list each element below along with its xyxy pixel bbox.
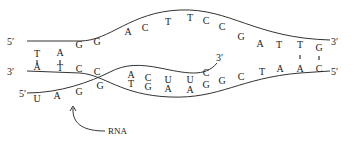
rna-pointer-line [73, 108, 105, 131]
coding-base: G [315, 42, 322, 53]
coding-base: C [142, 22, 149, 33]
template-base: C [238, 71, 245, 82]
rna-base: C [203, 67, 210, 78]
coding-base: G [93, 36, 100, 47]
template-base: A [186, 84, 194, 95]
coding-base: T [297, 39, 303, 50]
template-base: A [296, 63, 304, 74]
coding-base: A [56, 47, 64, 58]
rna-base: A [127, 69, 135, 80]
template-base: G [218, 75, 225, 86]
rna-label: RNA [108, 126, 128, 136]
template-3prime-label: 3′ [7, 66, 14, 77]
coding-base: T [165, 16, 171, 27]
coding-base: T [276, 39, 282, 50]
rna-base: U [186, 74, 194, 85]
template-base: T [259, 66, 265, 77]
coding-3prime-label: 3′ [331, 36, 338, 47]
coding-base: C [203, 15, 210, 26]
rna-base: C [145, 72, 152, 83]
template-base: A [276, 63, 284, 74]
coding-base: G [237, 31, 244, 42]
template-base: C [316, 63, 323, 74]
coding-base: T [34, 48, 40, 59]
rna-base: A [53, 90, 61, 101]
coding-base: A [124, 26, 132, 37]
coding-strand-line [27, 10, 330, 41]
template-base: C [94, 66, 101, 77]
rna-base: G [96, 80, 103, 91]
coding-base: C [219, 21, 226, 32]
rna-base: G [75, 86, 82, 97]
template-strand-line [27, 71, 330, 97]
coding-base: G [75, 39, 82, 50]
rna-5prime-label: 5′ [19, 88, 26, 99]
rna-base: U [33, 93, 41, 104]
coding-5prime-label: 5′ [7, 36, 14, 47]
rna-3prime-label: 3′ [216, 52, 223, 63]
coding-base: A [256, 38, 264, 49]
template-base: C [76, 63, 83, 74]
template-base: G [202, 79, 209, 90]
transcription-diagram: 5′ 3′ 3′ 5′ 5′ 3′ RNA TAGGACTTCCGATTG AT… [0, 0, 356, 143]
template-5prime-label: 5′ [331, 66, 338, 77]
coding-base: T [187, 12, 193, 23]
coding-strand-bases: TAGGACTTCCGATTG [34, 12, 323, 59]
rna-base: U [164, 74, 172, 85]
